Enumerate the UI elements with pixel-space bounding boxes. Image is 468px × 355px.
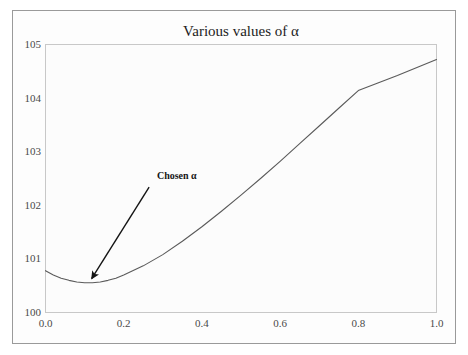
annotation-label-chosen-alpha: Chosen α (157, 170, 197, 181)
y-tick-label: 102 (25, 199, 42, 211)
y-tick-label: 101 (25, 252, 42, 264)
x-tick-label: 0.0 (39, 317, 53, 329)
line-chart: 105 104 103 102 101 100 0.0 0.2 0.4 0.6 … (0, 0, 468, 355)
x-tick-label: 0.2 (117, 317, 131, 329)
x-tick-label: 0.4 (195, 317, 209, 329)
y-tick-label: 104 (25, 92, 42, 104)
y-tick-label: 103 (25, 145, 42, 157)
chart-title: Various values of α (183, 23, 299, 39)
x-tick-label: 0.8 (351, 317, 365, 329)
figure-canvas: 105 104 103 102 101 100 0.0 0.2 0.4 0.6 … (0, 0, 468, 355)
y-axis-tick-labels: 105 104 103 102 101 100 (25, 38, 42, 318)
x-tick-label: 0.6 (273, 317, 287, 329)
x-axis-tick-labels: 0.0 0.2 0.4 0.6 0.8 1.0 (39, 317, 444, 329)
y-tick-label: 105 (25, 38, 42, 50)
plot-area (46, 45, 437, 313)
x-tick-label: 1.0 (430, 317, 444, 329)
